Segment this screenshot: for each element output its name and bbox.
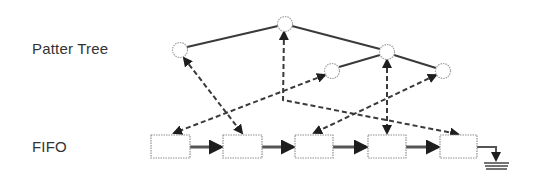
pointer-n1-b2 [184, 58, 242, 133]
ground-icon [484, 163, 509, 169]
pointer-lines [174, 32, 458, 134]
tree-nodes [173, 17, 451, 79]
edge-n4-n5 [394, 55, 436, 68]
fifo-box-2 [223, 135, 262, 158]
edge-root-n4 [292, 26, 380, 49]
fifo-box-4 [368, 135, 406, 158]
tree-node-5 [436, 64, 451, 79]
fifo-box-5 [440, 135, 477, 158]
link-b5-ground [477, 147, 496, 160]
fifo-box-3 [295, 135, 333, 158]
edge-n1-root [187, 26, 278, 47]
tree-node-3 [325, 64, 340, 79]
tree-node-1 [173, 43, 188, 58]
edge-n3-n4 [339, 55, 380, 67]
tree-node-4 [380, 45, 395, 60]
pointer-n5-b3 [314, 75, 436, 133]
tree-node-root [278, 17, 293, 32]
fifo-box-1 [151, 135, 190, 158]
pointer-n3-b1 [174, 75, 325, 133]
tree-edges [187, 26, 436, 68]
diagram-canvas [0, 0, 539, 181]
